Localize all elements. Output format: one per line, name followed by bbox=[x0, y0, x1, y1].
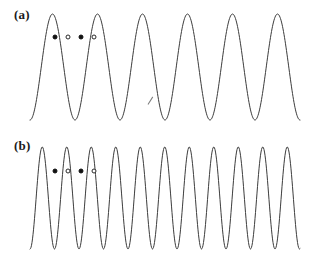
figure-container: (a) (b) bbox=[0, 0, 309, 263]
panel-b: (b) bbox=[0, 131, 309, 262]
wave-path bbox=[30, 147, 300, 249]
waveform-b bbox=[0, 131, 309, 262]
wave-path bbox=[30, 14, 300, 120]
waveform-a bbox=[0, 0, 309, 131]
panel-a: (a) bbox=[0, 0, 309, 131]
